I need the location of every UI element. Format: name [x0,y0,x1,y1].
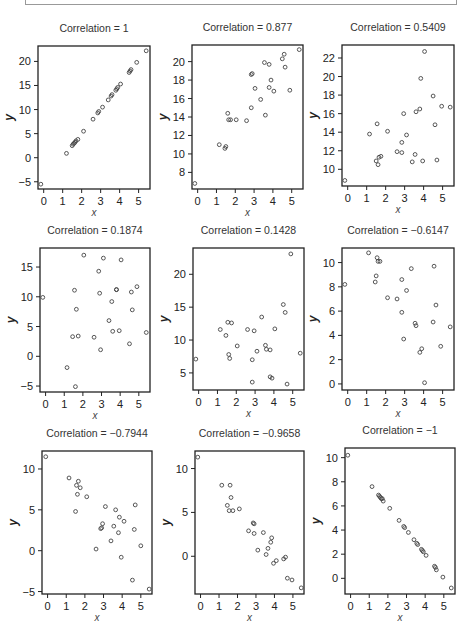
data-point [433,123,437,127]
x-axis-label: x [92,410,99,421]
data-point [220,483,224,487]
data-point [448,325,452,329]
y-axis-label: y [156,112,170,121]
y-axis-label: y [306,111,320,120]
x-tick-label: 5 [290,396,296,408]
data-point [290,578,294,582]
y-tick-label: 10 [326,452,338,464]
x-tick-label: 0 [345,192,351,204]
y-axis-label: y [309,516,323,525]
x-axis-label: x [91,207,98,218]
y-tick-label: 6 [332,500,338,512]
y-tick-label: 5 [180,367,186,379]
y-tick-label: 5 [25,128,31,140]
data-points [193,48,301,186]
y-tick-label: 15 [19,79,31,91]
data-point [283,65,287,69]
x-tick-label: 0 [345,396,351,408]
data-point [285,576,289,580]
x-axis-label: x [395,408,402,419]
x-tick-label: 2 [385,600,391,612]
data-point [255,349,259,353]
panel-title: Correlation = −0.7944 [46,427,148,439]
data-point [144,331,148,335]
x-tick-label: 4 [117,398,123,410]
data-point [368,132,372,136]
data-point [374,159,378,163]
data-point [228,483,232,487]
data-point [423,381,427,385]
data-points [44,455,151,591]
data-point [299,586,303,590]
y-tick-label: 0 [332,572,338,584]
data-point [114,508,118,512]
data-point [74,307,78,311]
data-point [76,334,80,338]
y-tick-label: 22 [323,52,335,64]
panel-title: Correlation = 0.877 [203,21,293,33]
data-point [419,76,423,80]
data-point [91,117,95,121]
data-point [103,505,107,509]
data-point [226,111,230,115]
data-point [400,141,404,145]
x-tick-label: 4 [421,192,427,204]
data-point [194,357,198,361]
data-point [409,267,413,271]
data-point [405,133,409,137]
data-point [448,105,452,109]
data-point [274,559,278,563]
scatter-panel-4: Correlation = 0.1874012345−5051015xy [4,224,150,421]
y-tick-label: 12 [323,145,335,157]
data-point [85,495,89,499]
data-point [101,105,105,109]
x-tick-label: 3 [98,398,104,410]
x-tick-label: 0 [195,195,201,207]
data-point [289,252,293,256]
data-point [98,291,102,295]
data-point [449,586,453,590]
y-axis-label: y [2,113,16,122]
x-tick-label: 4 [422,600,428,612]
data-point [76,492,80,496]
data-point [367,251,371,255]
data-point [264,343,268,347]
data-point [395,150,399,154]
plot-frame [342,45,454,186]
y-axis-label: y [4,315,18,324]
x-tick-label: 1 [216,600,222,612]
data-point [413,153,417,157]
data-point [122,519,126,523]
data-point [406,531,410,535]
data-point [252,532,256,536]
data-point [109,539,113,543]
data-point [395,297,399,301]
data-point [235,344,239,348]
x-tick-label: 3 [100,600,106,612]
data-point [264,347,268,351]
x-tick-label: 5 [138,600,144,612]
scatter-panel-2: Correlation = 0.8770123458101214161820xy [156,21,303,218]
data-point [431,94,435,98]
data-point [65,366,69,370]
x-tick-label: 4 [270,195,276,207]
data-point [400,310,404,314]
data-point [252,522,256,526]
x-tick-label: 0 [196,396,202,408]
data-point [263,113,267,117]
data-points [41,253,148,388]
data-point [402,337,406,341]
data-point [432,264,436,268]
x-tick-label: 3 [251,195,257,207]
data-point [268,348,272,352]
y-tick-label: 10 [19,104,31,116]
data-point [420,347,424,351]
data-point [117,531,121,535]
data-point [250,72,254,76]
y-tick-label: −5 [20,380,33,392]
data-point [249,106,253,110]
data-point [439,344,443,348]
data-point [266,546,270,550]
y-tick-label: 16 [323,108,335,120]
data-point [285,382,289,386]
